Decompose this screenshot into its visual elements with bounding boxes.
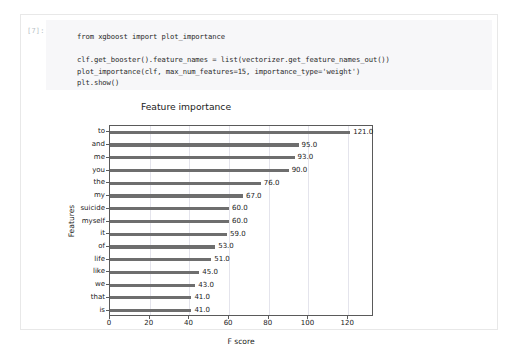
bar-row: 67.0 — [110, 190, 262, 203]
bar-row: 76.0 — [110, 177, 279, 190]
x-tick-label: 20 — [144, 320, 153, 327]
y-tick-label: life — [55, 255, 105, 262]
bar-value-label: 45.0 — [202, 269, 218, 276]
bar-value-label: 90.0 — [292, 167, 308, 174]
bar-value-label: 60.0 — [232, 205, 248, 212]
bar — [110, 284, 195, 287]
bar — [110, 143, 299, 146]
bar — [110, 131, 350, 134]
bar — [110, 207, 229, 210]
bar-value-label: 95.0 — [302, 142, 318, 149]
bar-row: 90.0 — [110, 164, 307, 177]
bar-row: 93.0 — [110, 151, 313, 164]
bar — [110, 245, 215, 248]
bar-value-label: 93.0 — [298, 154, 314, 161]
bar — [110, 182, 261, 185]
bar — [110, 220, 229, 223]
bar-value-label: 76.0 — [264, 180, 280, 187]
x-tick-label: 0 — [107, 320, 111, 327]
bar-value-label: 60.0 — [232, 218, 248, 225]
bar-row: 95.0 — [110, 139, 317, 152]
bar-row: 41.0 — [110, 304, 210, 317]
y-tick-label: me — [55, 153, 105, 160]
bar-value-label: 67.0 — [246, 193, 262, 200]
y-tick-label: that — [55, 293, 105, 300]
y-tick-label: you — [55, 166, 105, 173]
x-tick-label: 100 — [301, 320, 314, 327]
bar-row: 41.0 — [110, 292, 210, 305]
y-tick-label: it — [55, 230, 105, 237]
bar — [110, 271, 199, 274]
bar-value-label: 43.0 — [198, 282, 214, 289]
bar-row: 53.0 — [110, 241, 234, 254]
bar — [110, 309, 191, 312]
x-tick-label: 60 — [224, 320, 233, 327]
bar-row: 60.0 — [110, 215, 248, 228]
y-tick-label: myself — [55, 217, 105, 224]
bar-value-label: 41.0 — [194, 294, 210, 301]
y-tick-label: like — [55, 268, 105, 275]
bar — [110, 233, 227, 236]
y-tick-label: and — [55, 141, 105, 148]
bar — [110, 194, 243, 197]
chart-output-figure: Feature importance Features toandmeyouth… — [21, 91, 497, 329]
x-axis-title: F score — [109, 337, 373, 346]
bar-row: 60.0 — [110, 202, 248, 215]
y-tick-label: we — [55, 281, 105, 288]
bar-row: 45.0 — [110, 266, 218, 279]
bar — [110, 169, 289, 172]
bar-row: 59.0 — [110, 228, 246, 241]
notebook-cell: [7]: from xgboost import plot_importance… — [20, 14, 498, 330]
plot-area: 121.095.093.090.076.067.060.060.059.053.… — [109, 125, 373, 316]
chart-title: Feature importance — [21, 101, 351, 112]
bar — [110, 258, 211, 261]
y-tick-label: of — [55, 242, 105, 249]
bar — [110, 296, 191, 299]
gridline — [348, 126, 349, 315]
bar-row: 43.0 — [110, 279, 214, 292]
y-tick-label: to — [55, 128, 105, 135]
x-tick-label: 40 — [184, 320, 193, 327]
bar-value-label: 53.0 — [218, 243, 234, 250]
y-tick-label: is — [55, 306, 105, 313]
y-tick-label: the — [55, 179, 105, 186]
bar-row: 121.0 — [110, 126, 373, 139]
x-tick-label: 80 — [263, 320, 272, 327]
code-input-area[interactable]: from xgboost import plot_importance clf.… — [46, 20, 492, 90]
bar — [110, 156, 295, 159]
bar-value-label: 41.0 — [194, 307, 210, 314]
bar-value-label: 51.0 — [214, 256, 230, 263]
code-source-text[interactable]: from xgboost import plot_importance clf.… — [77, 31, 390, 89]
bar-row: 51.0 — [110, 253, 230, 266]
y-tick-label: my — [55, 192, 105, 199]
x-tick-label: 120 — [341, 320, 354, 327]
bar-value-label: 121.0 — [353, 129, 373, 136]
bar-value-label: 59.0 — [230, 231, 246, 238]
y-tick-label: suicide — [55, 204, 105, 211]
